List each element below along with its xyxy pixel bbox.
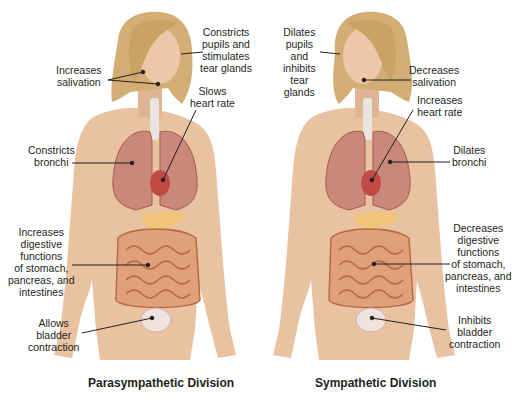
label-salivation: Increases salivation bbox=[56, 64, 102, 88]
label-bronchi: Dilates bronchi bbox=[452, 144, 486, 168]
label-bladder: Allows bladder contraction bbox=[28, 317, 79, 353]
parasympathetic-figure: Constricts pupils and stimulates tear gl… bbox=[0, 0, 258, 406]
label-eyes: Constricts pupils and stimulates tear gl… bbox=[200, 26, 252, 74]
label-eyes: Dilates pupils and inhibits tear glands bbox=[283, 26, 316, 98]
label-digestion: Increases digestive functions of stomach… bbox=[8, 226, 75, 298]
label-heart: Increases heart rate bbox=[417, 94, 463, 118]
parasympathetic-title: Parasympathetic Division bbox=[88, 376, 234, 390]
sympathetic-figure: Dilates pupils and inhibits tear glands … bbox=[259, 0, 517, 406]
label-salivation: Decreases salivation bbox=[409, 64, 459, 88]
label-bronchi: Constricts bronchi bbox=[28, 144, 75, 168]
heart bbox=[150, 170, 170, 196]
bladder bbox=[141, 308, 171, 332]
sympathetic-title: Sympathetic Division bbox=[315, 376, 436, 390]
label-bladder: Inhibits bladder contraction bbox=[449, 314, 500, 350]
heart bbox=[361, 170, 381, 196]
label-heart: Slows heart rate bbox=[190, 85, 235, 109]
bladder bbox=[356, 308, 386, 332]
label-digestion: Decreases digestive functions of stomach… bbox=[445, 222, 512, 294]
